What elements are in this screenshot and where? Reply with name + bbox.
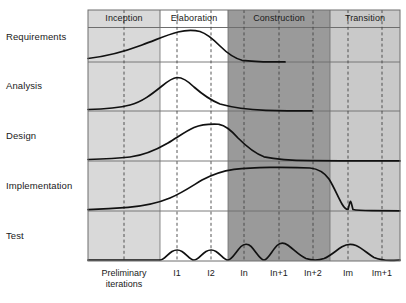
discipline-label-design: Design (6, 130, 36, 141)
discipline-label-test: Test (6, 230, 24, 241)
phase-label-transition: Transition (330, 13, 400, 23)
discipline-label-requirements: Requirements (6, 31, 66, 42)
iteration-label-preliminary-line2: iterations (88, 279, 160, 290)
discipline-label-implementation: Implementation (6, 180, 72, 191)
phase-band-transition (330, 10, 400, 261)
phase-label-construction: Construction (228, 13, 330, 23)
iteration-label-im-plus-1: Im+1 (362, 268, 402, 278)
phase-label-inception: Inception (88, 13, 160, 23)
phase-band-elaboration (160, 10, 228, 261)
chart-canvas (0, 0, 406, 303)
iteration-label-preliminary: Preliminary iterations (88, 268, 160, 290)
iteration-label-in-plus-2: In+2 (293, 268, 333, 278)
discipline-label-analysis: Analysis (6, 80, 42, 91)
rup-hump-chart: Inception Elaboration Construction Trans… (0, 0, 406, 303)
iteration-label-in: In (224, 268, 264, 278)
iteration-label-preliminary-line1: Preliminary (88, 268, 160, 279)
phase-label-elaboration: Elaboration (160, 13, 228, 23)
